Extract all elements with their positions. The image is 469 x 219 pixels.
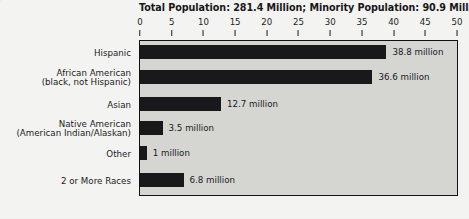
x-axis: 05101520253035404550 [139,17,458,41]
x-axis-tick-mark [393,30,394,36]
bars-layer: 38.8 million36.6 million12.7 million3.5 … [140,41,456,194]
bar-3 [140,121,162,135]
bar-1 [140,70,372,84]
bar-value-label-3: 3.5 million [169,122,215,134]
x-axis-tick-mark [140,30,141,36]
population-bar-chart: Total Population: 281.4 Million; Minorit… [0,0,469,219]
category-label-line: Asian [0,101,131,111]
category-label-line: Hispanic [0,49,131,59]
x-axis-tick-mark [266,30,267,36]
x-axis-tick-20: 20 [261,17,272,36]
x-axis-tick-label: 40 [388,17,399,28]
x-axis-tick-label: 0 [137,17,142,28]
bar-row: 12.7 million [140,97,456,111]
category-axis-labels: HispanicAfrican American(black, not Hisp… [0,40,135,196]
bar-row: 38.8 million [140,45,456,59]
bar-value-label-4: 1 million [153,147,190,159]
x-axis-tick-label: 20 [261,17,272,28]
category-label-3: Native American(American Indian/Alaskan) [0,120,131,139]
x-axis-tick-25: 25 [293,17,304,36]
bar-row: 6.8 million [140,173,456,187]
category-label-4: Other [0,150,131,160]
bar-value-label-2: 12.7 million [227,98,278,110]
bar-2 [140,97,221,111]
x-axis-tick-5: 5 [169,17,174,36]
chart-title: Total Population: 281.4 Million; Minorit… [139,2,459,13]
x-axis-tick-mark [235,30,236,36]
x-axis-tick-mark [457,30,458,36]
x-axis-tick-10: 10 [198,17,209,36]
category-label-line: (American Indian/Alaskan) [0,129,131,139]
category-label-1: African American(black, not Hispanic) [0,69,131,88]
category-label-5: 2 or More Races [0,177,131,187]
x-axis-tick-mark [330,30,331,36]
category-label-line: Other [0,150,131,160]
bar-value-label-5: 6.8 million [190,174,236,186]
x-axis-tick-30: 30 [325,17,336,36]
bar-4 [140,146,146,160]
bar-value-label-1: 36.6 million [378,71,429,83]
x-axis-tick-label: 15 [230,17,241,28]
x-axis-tick-mark [171,30,172,36]
bar-value-label-0: 38.8 million [392,46,443,58]
x-axis-tick-15: 15 [230,17,241,36]
category-label-line: 2 or More Races [0,177,131,187]
bar-0 [140,45,386,59]
x-axis-tick-mark [425,30,426,36]
category-label-2: Asian [0,101,131,111]
x-axis-tick-mark [361,30,362,36]
x-axis-tick-0: 0 [137,17,142,36]
x-axis-tick-label: 35 [356,17,367,28]
x-axis-tick-label: 5 [169,17,174,28]
x-axis-tick-label: 25 [293,17,304,28]
bar-5 [140,173,183,187]
category-label-line: (black, not Hispanic) [0,78,131,88]
x-axis-tick-label: 10 [198,17,209,28]
bar-row: 3.5 million [140,121,456,135]
bar-row: 1 million [140,146,456,160]
x-axis-tick-mark [298,30,299,36]
x-axis-tick-label: 30 [325,17,336,28]
x-axis-tick-50: 50 [452,17,463,36]
x-axis-tick-mark [203,30,204,36]
x-axis-tick-40: 40 [388,17,399,36]
x-axis-tick-label: 45 [420,17,431,28]
category-label-0: Hispanic [0,49,131,59]
bar-row: 36.6 million [140,70,456,84]
x-axis-tick-45: 45 [420,17,431,36]
x-axis-tick-label: 50 [452,17,463,28]
x-axis-tick-35: 35 [356,17,367,36]
